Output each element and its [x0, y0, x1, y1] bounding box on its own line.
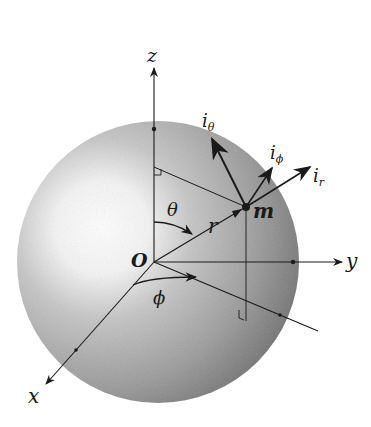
x-axis-label: x	[28, 386, 39, 406]
origin-label: O	[131, 251, 148, 270]
i-phi-base: i	[270, 142, 276, 163]
radius-label: r	[208, 216, 218, 236]
i-phi-subscript: ϕ	[276, 153, 284, 166]
diagram-canvas	[0, 0, 371, 427]
spherical-coordinates-diagram: z y x O m r θ ϕ iθ iϕ ir	[0, 0, 371, 427]
z-axis-label: z	[147, 46, 157, 65]
i-theta-label: iθ	[202, 112, 214, 130]
i-phi-label: iϕ	[270, 144, 283, 162]
y-axis-sphere-point	[291, 260, 295, 264]
z-axis-sphere-point	[152, 127, 156, 131]
y-axis-label: y	[346, 251, 357, 271]
projection-sphere-point	[278, 313, 282, 317]
phi-label: ϕ	[153, 289, 165, 307]
i-theta-subscript: θ	[208, 121, 215, 134]
i-theta-base: i	[202, 110, 208, 131]
i-r-base: i	[313, 165, 319, 186]
x-axis-sphere-point	[74, 348, 78, 352]
theta-label: θ	[167, 201, 178, 219]
point-label: m	[253, 201, 274, 221]
i-r-label: ir	[313, 167, 324, 185]
i-r-subscript: r	[319, 176, 324, 189]
